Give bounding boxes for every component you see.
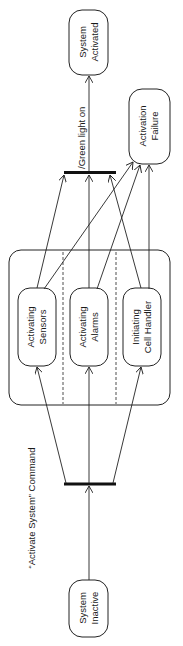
transition-label-activate: “Activate System” Command [26,448,37,569]
state-label: Alarms [89,312,100,342]
state-label: System [77,26,88,58]
state-activating-alarms[interactable]: Activating Alarms [70,288,108,366]
state-label: Activating [25,306,36,347]
state-label: Cell Handler [142,301,153,353]
transition-label-green-light: /Green light on [76,107,87,169]
state-system-inactive[interactable]: System Inactive [69,580,108,637]
transition-arrow-failure [44,162,133,289]
transition-arrow [110,175,141,288]
state-activating-sensors[interactable]: Activating Sensors [18,288,56,366]
fork-bar [64,483,116,486]
transition-arrow-failure [97,165,140,289]
state-label: Failure [149,111,160,140]
state-label: Activation [137,105,148,146]
transition-arrow [37,175,64,288]
state-system-activated[interactable]: System Activated [69,10,108,75]
state-label: Activating [77,306,88,347]
state-label: Inactive [89,592,100,625]
join-bar [64,171,116,174]
transition-arrow [113,367,141,483]
state-label: Initiating [130,309,141,344]
state-diagram: System Inactive “Activate System” Comman… [0,0,183,646]
state-initiating-cell-handler[interactable]: Initiating Cell Handler [123,288,161,366]
state-label: System [77,592,88,624]
state-label: Activated [89,22,100,61]
state-label: Sensors [37,309,48,344]
state-activation-failure[interactable]: Activation Failure [129,89,170,164]
transition-arrow [37,367,66,483]
